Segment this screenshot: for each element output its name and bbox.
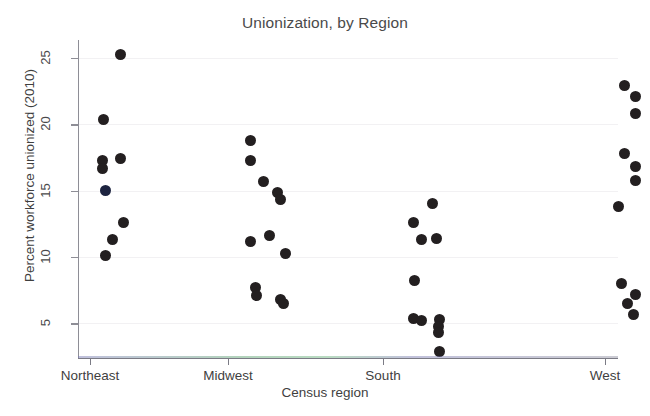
data-point bbox=[118, 217, 129, 228]
data-point bbox=[278, 298, 289, 309]
data-point bbox=[616, 278, 627, 289]
data-point bbox=[115, 49, 126, 60]
data-point bbox=[416, 315, 427, 326]
y-tick-label-15: 15 bbox=[38, 173, 53, 207]
x-tick-midwest bbox=[228, 358, 229, 365]
page-title: Unionization, by Region bbox=[0, 14, 650, 32]
data-point bbox=[251, 290, 262, 301]
data-point bbox=[280, 248, 291, 259]
y-tick-label-20: 20 bbox=[38, 107, 53, 141]
data-point bbox=[258, 176, 269, 187]
data-point bbox=[431, 233, 442, 244]
data-point bbox=[630, 91, 641, 102]
data-point bbox=[613, 201, 624, 212]
y-tick-label-5: 5 bbox=[38, 306, 53, 340]
data-point bbox=[630, 175, 641, 186]
y-tick-label-10: 10 bbox=[38, 240, 53, 274]
x-tick-west bbox=[605, 358, 606, 365]
x-axis-title: Census region bbox=[0, 385, 650, 400]
x-tick-south bbox=[383, 358, 384, 365]
y-axis-line bbox=[78, 40, 79, 359]
x-axis-line bbox=[78, 358, 618, 359]
data-point bbox=[264, 230, 275, 241]
data-point bbox=[630, 108, 641, 119]
data-point bbox=[100, 250, 111, 261]
x-tick-label-south: South bbox=[365, 368, 400, 383]
x-tick-northeast bbox=[90, 358, 91, 365]
data-point bbox=[619, 80, 630, 91]
data-point bbox=[630, 161, 641, 172]
data-point bbox=[97, 163, 108, 174]
data-point bbox=[245, 135, 256, 146]
data-point bbox=[245, 155, 256, 166]
gridline-20 bbox=[78, 124, 618, 125]
y-tick-20 bbox=[71, 124, 78, 125]
y-tick-label-25: 25 bbox=[38, 41, 53, 75]
data-point bbox=[98, 114, 109, 125]
x-axis-color-band bbox=[78, 356, 618, 358]
data-point bbox=[115, 153, 126, 164]
data-point bbox=[416, 234, 427, 245]
data-point bbox=[408, 217, 419, 228]
data-point bbox=[245, 236, 256, 247]
plot-area bbox=[78, 40, 618, 358]
data-point bbox=[275, 194, 286, 205]
y-tick-10 bbox=[71, 257, 78, 258]
data-point bbox=[433, 327, 444, 338]
y-tick-25 bbox=[71, 58, 78, 59]
x-tick-label-west: West bbox=[590, 368, 621, 383]
y-tick-5 bbox=[71, 323, 78, 324]
chart-figure: Unionization, by Region 510152025 Northe… bbox=[0, 0, 650, 416]
data-point bbox=[100, 185, 111, 196]
data-point bbox=[107, 234, 118, 245]
gridline-5 bbox=[78, 323, 618, 324]
data-point bbox=[619, 148, 630, 159]
data-point bbox=[622, 298, 633, 309]
gridline-15 bbox=[78, 191, 618, 192]
data-point bbox=[409, 275, 420, 286]
data-point bbox=[628, 309, 639, 320]
y-tick-15 bbox=[71, 191, 78, 192]
x-tick-label-northeast: Northeast bbox=[61, 368, 120, 383]
x-tick-label-midwest: Midwest bbox=[203, 368, 253, 383]
gridline-25 bbox=[78, 58, 618, 59]
data-point bbox=[630, 289, 641, 300]
y-axis-title: Percent workforce unionized (2010) bbox=[22, 51, 37, 301]
gridline-10 bbox=[78, 257, 618, 258]
data-point bbox=[427, 198, 438, 209]
